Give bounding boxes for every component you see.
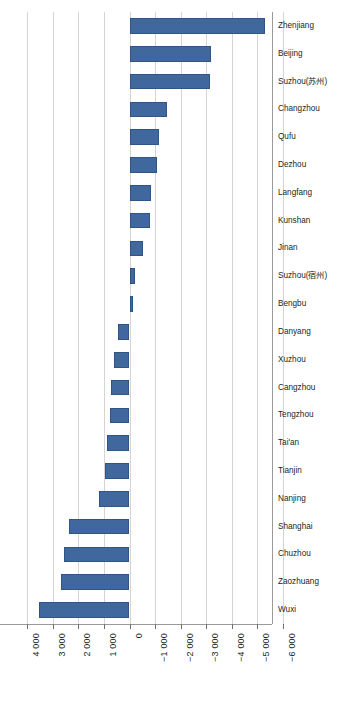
- bar-row: [0, 463, 272, 479]
- category-label: Jinan: [278, 243, 298, 253]
- category-label: Suzhou(苏州): [278, 77, 327, 87]
- x-tick-label: −2 000: [185, 633, 195, 662]
- bar-row: [0, 129, 272, 145]
- x-tick-mark: [283, 624, 284, 629]
- x-tick-mark: [78, 624, 79, 629]
- x-tick-label: −6 000: [287, 633, 297, 662]
- category-label: Cangzhou: [278, 383, 315, 393]
- bar-row: [0, 296, 272, 312]
- x-tick-label: −1 000: [159, 633, 169, 662]
- bar[interactable]: [130, 157, 157, 173]
- x-tick-mark: [27, 624, 28, 629]
- category-label: Bengbu: [278, 299, 306, 309]
- bar[interactable]: [130, 129, 159, 145]
- bar-row: [0, 102, 272, 118]
- category-axis-labels: ZhenjiangBeijingSuzhou(苏州)ChangzhouQufuD…: [278, 12, 350, 624]
- x-tick-mark: [155, 624, 156, 629]
- bar[interactable]: [111, 380, 130, 396]
- category-axis-line: [272, 12, 273, 624]
- plot-area: [0, 12, 272, 624]
- bar-row: [0, 157, 272, 173]
- bar[interactable]: [64, 547, 130, 563]
- x-tick-mark: [257, 624, 258, 629]
- x-tick-label: 3 000: [57, 633, 67, 657]
- category-label: Chuzhou: [278, 549, 311, 559]
- bar[interactable]: [110, 408, 130, 424]
- bar-row: [0, 18, 272, 34]
- bar[interactable]: [69, 519, 130, 535]
- bar-row: [0, 241, 272, 257]
- x-tick-label: −3 000: [210, 633, 220, 662]
- bar[interactable]: [61, 574, 130, 590]
- x-tick-mark: [206, 624, 207, 629]
- category-label: Tianjin: [278, 466, 302, 476]
- bar-row: [0, 519, 272, 535]
- bar[interactable]: [130, 74, 210, 90]
- bar-row: [0, 268, 272, 284]
- category-label: Tai'an: [278, 438, 299, 448]
- bar[interactable]: [99, 491, 130, 507]
- bar-row: [0, 74, 272, 90]
- x-tick-label: 2 000: [82, 633, 92, 657]
- bar-row: [0, 574, 272, 590]
- category-label: Qufu: [278, 132, 296, 142]
- bar-row: [0, 435, 272, 451]
- category-label: Zaozhuang: [278, 577, 319, 587]
- bar-row: [0, 213, 272, 229]
- bar[interactable]: [130, 296, 134, 312]
- x-tick-mark: [181, 624, 182, 629]
- category-label: Zhenjiang: [278, 21, 314, 31]
- bar-row: [0, 491, 272, 507]
- bar-row: [0, 602, 272, 618]
- bar-row: [0, 185, 272, 201]
- bar[interactable]: [130, 185, 151, 201]
- bar[interactable]: [118, 324, 129, 340]
- bar[interactable]: [130, 18, 265, 34]
- x-tick-label: 1 000: [108, 633, 118, 657]
- bar-row: [0, 380, 272, 396]
- bar[interactable]: [130, 46, 212, 62]
- category-label: Tengzhou: [278, 410, 314, 420]
- category-label: Shanghai: [278, 522, 313, 532]
- category-label: Suzhou(宿州): [278, 271, 327, 281]
- bar-chart: ZhenjiangBeijingSuzhou(苏州)ChangzhouQufuD…: [0, 0, 350, 711]
- category-label: Changzhou: [278, 104, 320, 114]
- bar-row: [0, 547, 272, 563]
- x-tick-mark: [130, 624, 131, 629]
- bar[interactable]: [130, 241, 144, 257]
- category-label: Kunshan: [278, 216, 310, 226]
- bar[interactable]: [130, 268, 136, 284]
- x-tick-mark: [104, 624, 105, 629]
- bar[interactable]: [105, 463, 130, 479]
- category-label: Xuzhou: [278, 355, 306, 365]
- category-label: Dezhou: [278, 160, 306, 170]
- bar-row: [0, 324, 272, 340]
- bar-row: [0, 352, 272, 368]
- category-label: Langfang: [278, 188, 312, 198]
- x-tick-label: 0: [134, 633, 144, 638]
- bar[interactable]: [39, 602, 129, 618]
- bar[interactable]: [114, 352, 130, 368]
- bar-row: [0, 46, 272, 62]
- x-tick-mark: [53, 624, 54, 629]
- bar-row: [0, 408, 272, 424]
- x-tick-label: −4 000: [236, 633, 246, 662]
- category-label: Beijing: [278, 49, 303, 59]
- bar[interactable]: [130, 102, 167, 118]
- category-label: Danyang: [278, 327, 311, 337]
- bar[interactable]: [130, 213, 151, 229]
- x-tick-label: 4 000: [31, 633, 41, 657]
- category-label: Nanjing: [278, 494, 306, 504]
- x-tick-label: −5 000: [261, 633, 271, 662]
- category-label: Wuxi: [278, 605, 296, 615]
- bar[interactable]: [107, 435, 130, 451]
- x-tick-mark: [232, 624, 233, 629]
